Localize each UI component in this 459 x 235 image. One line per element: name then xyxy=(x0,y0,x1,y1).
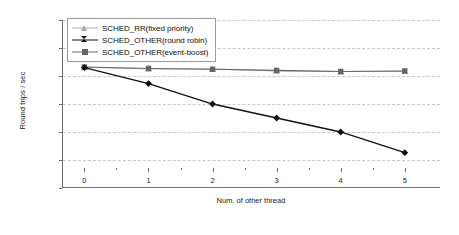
legend-item[interactable]: SCHED_OTHER(event-boost) xyxy=(72,46,208,58)
y-tick-mark xyxy=(59,188,62,189)
data-point-marker xyxy=(210,67,215,72)
legend: SCHED_RR(fixed priority)SCHED_OTHER(roun… xyxy=(67,18,216,62)
series-2 xyxy=(81,64,408,156)
legend-diamond-icon xyxy=(72,34,98,46)
data-point-marker xyxy=(401,149,408,156)
data-point-marker xyxy=(274,68,279,73)
data-point-marker xyxy=(337,129,344,136)
data-point-marker xyxy=(273,115,280,122)
data-point-marker xyxy=(338,69,343,74)
data-point-marker xyxy=(402,68,407,73)
series-1 xyxy=(81,64,409,75)
series-line xyxy=(84,67,404,71)
series-3 xyxy=(82,64,408,74)
legend-label: SCHED_RR(fixed priority) xyxy=(102,24,193,33)
legend-label: SCHED_OTHER(event-boost) xyxy=(102,48,208,57)
legend-item[interactable]: SCHED_RR(fixed priority) xyxy=(72,22,208,34)
legend-triangle-icon xyxy=(72,22,98,34)
legend-item[interactable]: SCHED_OTHER(round robin) xyxy=(72,34,208,46)
series-line xyxy=(84,68,404,153)
data-point-marker xyxy=(146,66,151,71)
chart-container: Round trips / sec 5060708090100110 01234… xyxy=(0,0,459,235)
y-axis-title: Round trips / sec xyxy=(18,41,27,161)
data-point-marker xyxy=(145,80,152,87)
legend-square-icon xyxy=(72,46,98,58)
data-point-marker xyxy=(209,101,216,108)
x-axis-title: Num. of other thread xyxy=(62,196,440,205)
legend-label: SCHED_OTHER(round robin) xyxy=(102,36,207,45)
